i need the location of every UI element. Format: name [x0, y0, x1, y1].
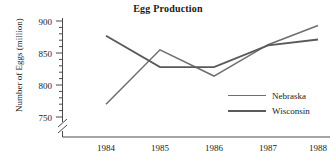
x-tick-label-1985: 1985 [151, 143, 170, 153]
y-tick-label-800: 800 [39, 81, 53, 91]
legend-item-wisconsin: Wisconsin [228, 103, 310, 118]
legend-item-nebraska: Nebraska [228, 88, 310, 103]
y-tick-label-900: 900 [39, 17, 53, 27]
chart-container: Egg Production Number of Eggs (million) [0, 0, 336, 162]
x-tick-label-1986: 1986 [205, 143, 224, 153]
x-tick-label-1984: 1984 [97, 143, 116, 153]
y-axis-major-ticks [56, 21, 63, 117]
x-tick-label-1987: 1987 [259, 143, 278, 153]
legend-label-nebraska: Nebraska [272, 91, 306, 101]
chart-legend: Nebraska Wisconsin [228, 88, 310, 118]
line-series-wisconsin [106, 36, 318, 67]
legend-label-wisconsin: Wisconsin [272, 106, 310, 116]
y-tick-label-850: 850 [39, 49, 53, 59]
legend-swatch-wisconsin [228, 110, 266, 112]
x-tick-label-1988: 1988 [309, 143, 328, 153]
y-axis-minor-ticks [59, 27, 63, 110]
y-tick-label-750: 750 [39, 113, 53, 123]
legend-swatch-nebraska [228, 95, 266, 96]
plot-area: 900 850 800 750 1984 1985 1986 1987 1988 [0, 0, 336, 162]
